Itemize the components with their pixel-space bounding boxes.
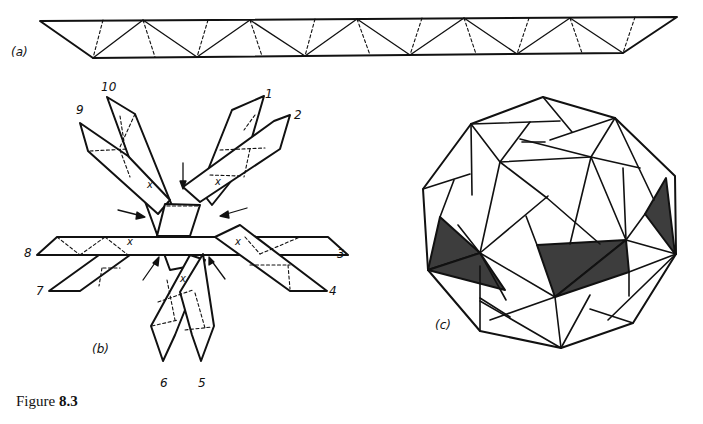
strip-number-2: 2 — [294, 108, 302, 122]
part-b-label: (b) — [92, 342, 109, 356]
figure-8-3-drawing — [0, 0, 703, 424]
strip-number-6: 6 — [160, 376, 168, 390]
crossing-mark: x — [147, 179, 153, 190]
strip-number-8: 8 — [24, 246, 32, 260]
part-a-label: (a) — [11, 45, 28, 59]
strip-number-1: 1 — [265, 87, 273, 101]
caption-number: 8.3 — [59, 393, 78, 409]
strip-number-3: 3 — [337, 247, 345, 261]
part-c-polyhedron — [423, 97, 676, 348]
part-c-label: (c) — [435, 318, 451, 332]
crossing-mark: x — [127, 236, 133, 247]
crossing-mark: x — [235, 236, 241, 247]
strip-number-4: 4 — [329, 284, 337, 298]
strip-number-7: 7 — [36, 284, 44, 298]
strip-number-5: 5 — [198, 376, 206, 390]
crossing-mark: x — [180, 273, 186, 284]
caption-prefix: Figure — [16, 393, 59, 409]
part-a-strip — [40, 17, 677, 58]
crossing-mark: x — [215, 176, 221, 187]
figure-caption: Figure 8.3 — [16, 393, 78, 410]
strip-number-9: 9 — [76, 103, 84, 117]
part-b-weave — [37, 96, 348, 361]
strip-number-10: 10 — [101, 80, 116, 94]
